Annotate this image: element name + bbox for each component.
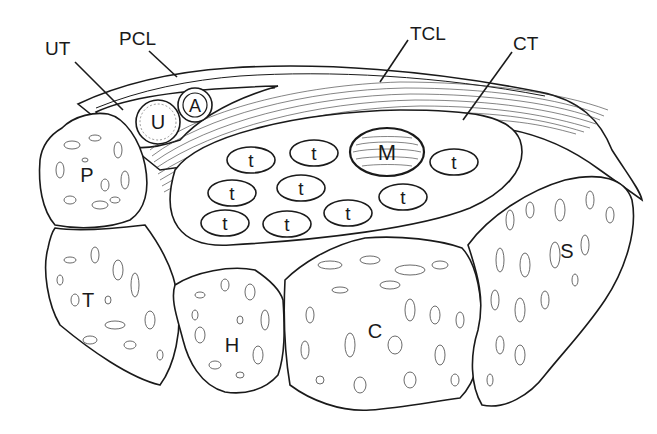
diagram-canvas: U A M t t t t t xyxy=(0,0,657,434)
bone-triquetrum: T xyxy=(46,225,179,385)
svg-text:t: t xyxy=(284,214,290,235)
bone-label-t: T xyxy=(82,289,94,311)
callout-label-ut: UT xyxy=(45,38,71,59)
nerve-label: M xyxy=(378,140,396,165)
ulnar-vessel: U xyxy=(136,100,180,144)
vessel-label-a: A xyxy=(189,96,201,116)
svg-text:t: t xyxy=(400,187,406,208)
callout-pcl: PCL xyxy=(119,28,177,77)
svg-text:t: t xyxy=(222,213,228,234)
callout-ut: UT xyxy=(45,38,123,110)
tendon: t xyxy=(430,149,478,175)
bone-capitate: C xyxy=(284,237,482,410)
vessel-label-u: U xyxy=(151,111,165,133)
bone-label-p: P xyxy=(80,164,93,186)
svg-text:t: t xyxy=(311,143,317,164)
tendon: t xyxy=(263,211,311,237)
svg-text:t: t xyxy=(229,183,235,204)
bone-pisiform: P xyxy=(40,113,147,227)
svg-text:t: t xyxy=(298,178,304,199)
tendon: t xyxy=(201,210,249,236)
tendon: t xyxy=(379,184,427,210)
callout-label-pcl: PCL xyxy=(119,28,156,49)
tendon: t xyxy=(227,147,275,173)
tendon: t xyxy=(290,140,338,166)
median-nerve: M xyxy=(350,128,424,176)
tendon: t xyxy=(277,175,325,201)
svg-text:t: t xyxy=(451,152,457,173)
tendon: t xyxy=(324,200,372,226)
callout-label-tcl: TCL xyxy=(410,23,446,44)
svg-text:t: t xyxy=(345,203,351,224)
bone-label-c: C xyxy=(368,320,382,342)
artery-a: A xyxy=(178,88,212,122)
tendon: t xyxy=(208,180,256,206)
callout-label-ct: CT xyxy=(513,33,539,54)
bone-label-h: H xyxy=(225,334,239,356)
svg-text:t: t xyxy=(248,150,254,171)
bone-hamate: H xyxy=(173,268,284,392)
bone-label-s: S xyxy=(560,240,573,262)
bone-scaphoid: S xyxy=(468,177,633,406)
